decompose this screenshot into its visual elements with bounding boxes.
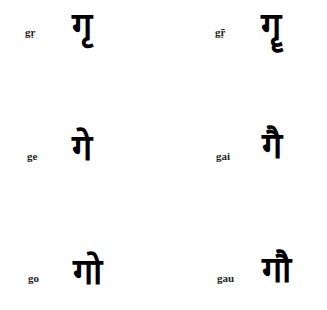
syllable-cell-ge: ge गे bbox=[0, 110, 163, 210]
syllable-cell-go: go गो bbox=[0, 240, 163, 310]
devanagari-glyph: गौ bbox=[262, 252, 291, 288]
transliteration-label: go bbox=[28, 272, 39, 284]
transliteration-label: gṛ bbox=[25, 26, 35, 38]
devanagari-glyph: गो bbox=[73, 254, 102, 290]
syllable-cell-gr: gṛ गृ bbox=[0, 0, 163, 100]
syllable-cell-gau: gau गौ bbox=[163, 240, 326, 310]
transliteration-label: ge bbox=[27, 150, 37, 162]
devanagari-glyph: गै bbox=[262, 128, 282, 164]
transliteration-label: gau bbox=[217, 272, 234, 284]
devanagari-glyph: गृ bbox=[72, 8, 92, 44]
syllable-cell-grr: gṝ गॄ bbox=[163, 0, 326, 100]
syllable-cell-gai: gai गै bbox=[163, 110, 326, 210]
transliteration-label: gṝ bbox=[215, 26, 225, 38]
devanagari-glyph: गे bbox=[72, 130, 92, 166]
devanagari-glyph: गॄ bbox=[261, 8, 281, 44]
transliteration-label: gai bbox=[216, 150, 230, 162]
